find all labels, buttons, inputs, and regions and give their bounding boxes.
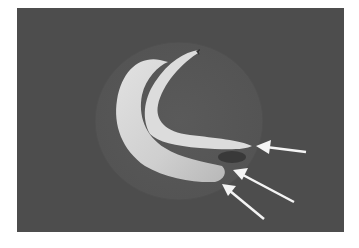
arrow-3 [222,184,264,219]
specimen-figure [0,0,359,248]
arrow-2 [233,168,294,202]
arrow-1 [256,140,306,154]
specimen-shadow [218,151,246,163]
